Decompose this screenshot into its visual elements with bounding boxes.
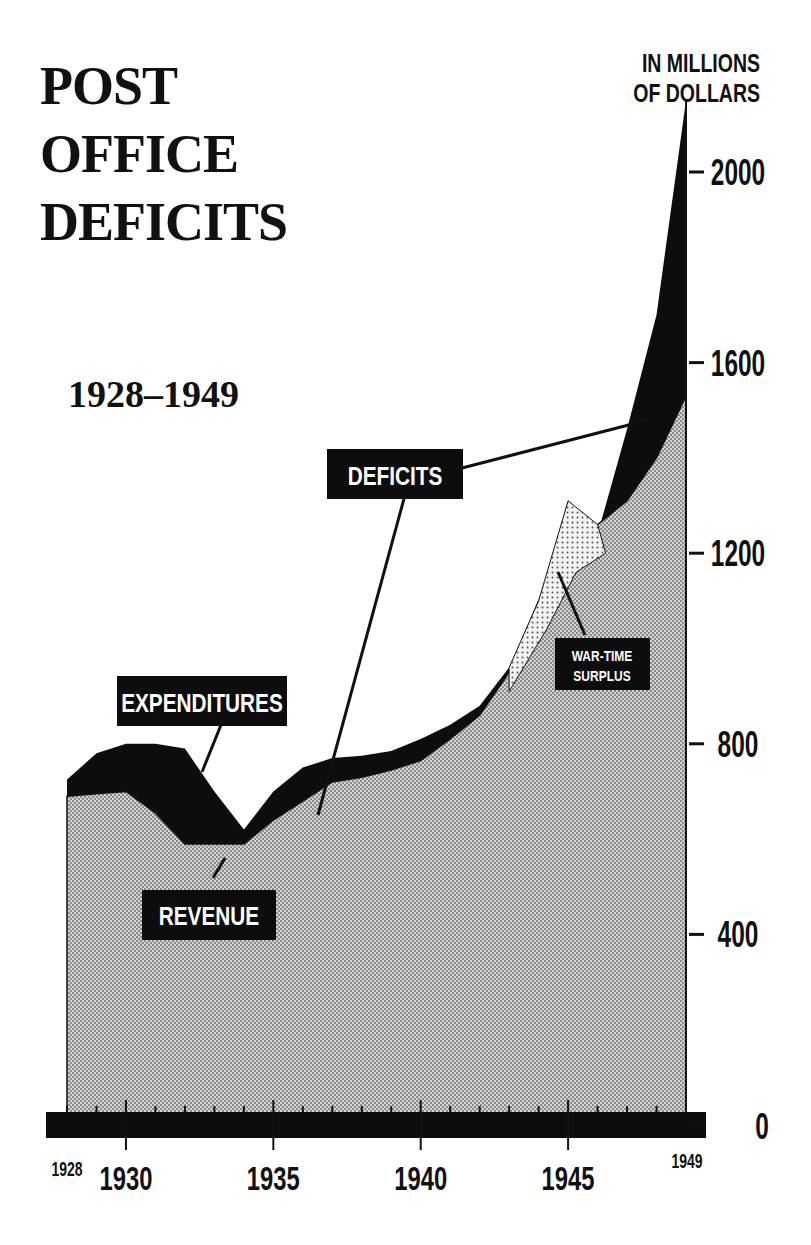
svg-text:EXPENDITURES: EXPENDITURES [121, 689, 283, 718]
x-axis-bar [46, 1112, 706, 1138]
wartime-surplus-label: WAR-TIME SURPLUS [555, 638, 650, 690]
x-tick-label-1949: 1949 [671, 1149, 702, 1172]
deficits-label: DEFICITS [327, 449, 463, 499]
y-tick-label-0: 0 [755, 1106, 769, 1147]
y-tick-label-400: 400 [718, 915, 759, 956]
expenditures-label: EXPENDITURES [117, 676, 287, 726]
x-tick-label-1940: 1940 [394, 1159, 447, 1197]
x-tick-label-1935: 1935 [247, 1159, 300, 1197]
x-tick-label-1945: 1945 [542, 1159, 595, 1197]
svg-text:WAR-TIME: WAR-TIME [572, 648, 633, 665]
y-tick-label-1600: 1600 [711, 343, 765, 384]
x-tick-label-1928: 1928 [51, 1157, 82, 1180]
x-tick-label-1930: 1930 [99, 1159, 152, 1197]
svg-text:REVENUE: REVENUE [159, 902, 260, 931]
y-tick-label-1200: 1200 [711, 533, 765, 574]
revenue-label: REVENUE [142, 890, 276, 940]
svg-text:DEFICITS: DEFICITS [348, 462, 443, 491]
area-chart: 1930193519401945192819490400800120016002… [0, 0, 811, 1245]
y-tick-label-2000: 2000 [711, 152, 765, 193]
svg-text:SURPLUS: SURPLUS [573, 668, 630, 685]
y-tick-label-800: 800 [718, 724, 759, 765]
